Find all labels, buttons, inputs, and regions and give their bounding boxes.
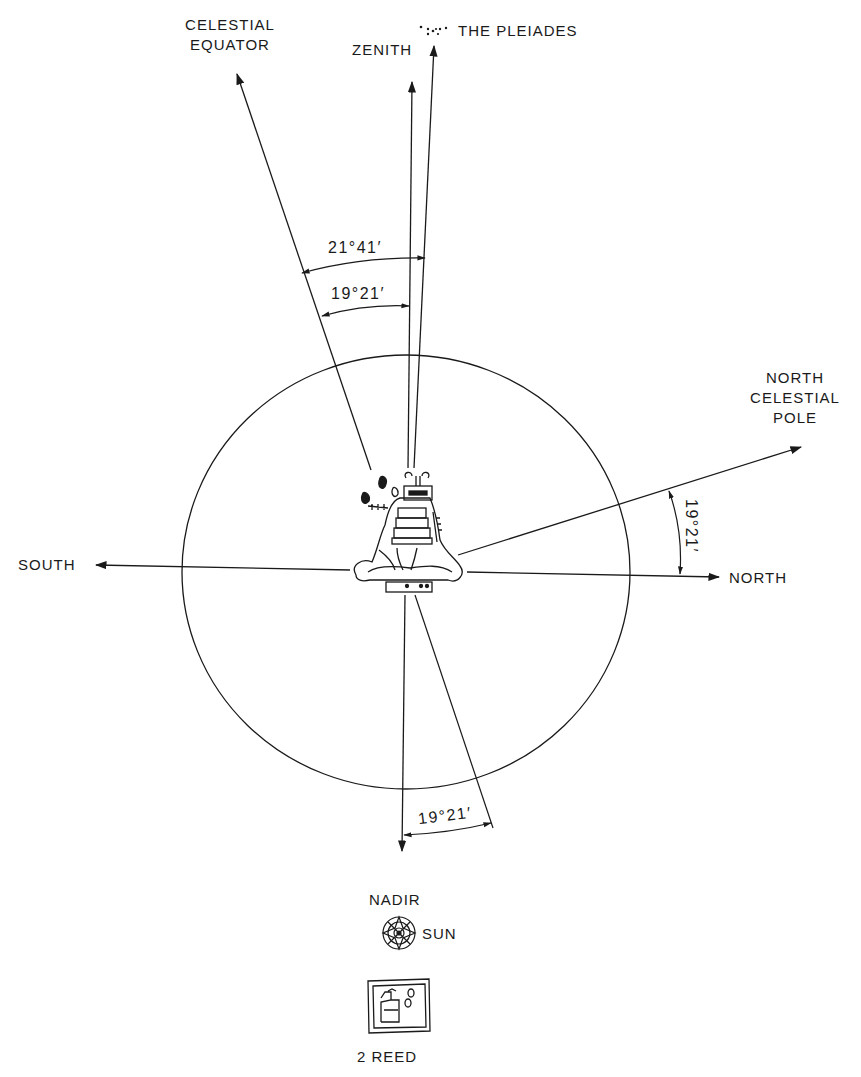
south-label: SOUTH xyxy=(18,555,76,575)
arc-19-21-right xyxy=(669,491,681,574)
anti-equator-line xyxy=(415,595,493,828)
south-line xyxy=(96,565,350,570)
sun-label: SUN xyxy=(422,924,457,944)
ncp-label-line2: CELESTIAL xyxy=(735,388,855,408)
angle-21-41: 21°41′ xyxy=(328,239,382,257)
pleiades-stars-icon xyxy=(420,26,447,36)
north-line xyxy=(467,572,719,577)
temple-glyph-icon xyxy=(354,472,462,592)
zenith-label: ZENITH xyxy=(352,40,412,60)
arc-19-21-bottom xyxy=(404,823,491,835)
two-reed-glyph-icon xyxy=(368,979,430,1033)
horizon-circle xyxy=(182,355,630,789)
zenith-line xyxy=(408,82,412,468)
north-label: NORTH xyxy=(729,568,787,588)
sun-glyph-icon xyxy=(383,917,415,949)
arc-21-41 xyxy=(302,258,425,273)
diagram-canvas xyxy=(0,0,861,1077)
angle-19-21-zenith: 19°21′ xyxy=(331,285,385,303)
arc-19-21-top xyxy=(322,306,409,316)
celestial-equator-label-line1: CELESTIAL xyxy=(175,15,285,35)
nadir-line xyxy=(402,595,405,851)
ncp-label-line1: NORTH xyxy=(735,368,855,388)
angle-19-21-pole: 19°21′ xyxy=(682,499,700,553)
nadir-label: NADIR xyxy=(369,890,421,910)
pleiades-label: THE PLEIADES xyxy=(458,21,578,41)
celestial-equator-label: CELESTIAL EQUATOR xyxy=(175,15,285,55)
two-reed-label: 2 REED xyxy=(357,1047,417,1067)
north-celestial-pole-line xyxy=(458,447,801,555)
north-celestial-pole-label: NORTH CELESTIAL POLE xyxy=(735,368,855,428)
celestial-equator-label-line2: EQUATOR xyxy=(175,35,285,55)
pleiades-line xyxy=(414,46,434,468)
ncp-label-line3: POLE xyxy=(735,408,855,428)
